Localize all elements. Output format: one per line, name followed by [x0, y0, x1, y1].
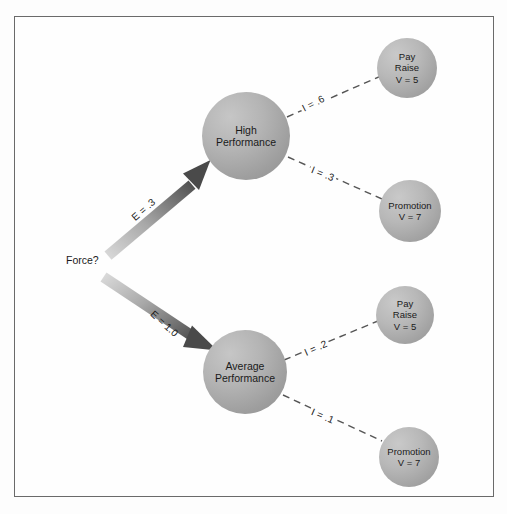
node-label-line: Performance: [215, 372, 275, 385]
node-high-performance[interactable]: High Performance: [202, 92, 290, 180]
node-label-line: Average: [226, 360, 265, 373]
node-label-line: Raise: [395, 62, 419, 74]
node-valence-value: V = 7: [398, 457, 420, 469]
figure-root: High Performance Average Performance Pay…: [0, 0, 507, 514]
node-label-line: Promotion: [387, 446, 430, 458]
node-label-line: Pay: [399, 51, 415, 63]
node-label-line: Raise: [393, 309, 417, 321]
node-label-line: High: [235, 124, 257, 137]
node-promotion-average[interactable]: Promotion V = 7: [379, 427, 439, 487]
node-pay-raise-average[interactable]: Pay Raise V = 5: [376, 286, 434, 344]
node-valence-value: V = 7: [399, 211, 421, 223]
node-valence-value: V = 5: [396, 74, 418, 86]
node-pay-raise-high[interactable]: Pay Raise V = 5: [377, 38, 437, 98]
node-average-performance[interactable]: Average Performance: [203, 330, 287, 414]
node-label-line: Promotion: [388, 200, 431, 212]
source-label-force: Force?: [66, 254, 99, 266]
node-label-line: Pay: [397, 298, 413, 310]
node-valence-value: V = 5: [394, 321, 416, 333]
node-promotion-high[interactable]: Promotion V = 7: [379, 180, 441, 242]
node-label-line: Performance: [216, 136, 276, 149]
